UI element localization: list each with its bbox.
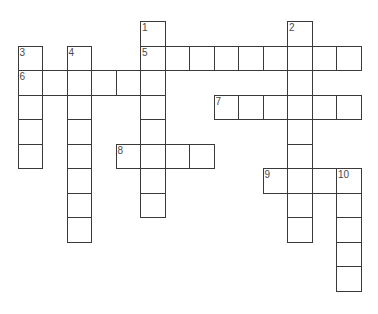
crossword-cell[interactable] [312,168,338,194]
crossword-cell[interactable] [18,144,44,170]
crossword-cell[interactable] [18,119,44,145]
crossword-cell[interactable]: 5 [140,46,166,72]
crossword-cell[interactable]: 10 [336,168,362,194]
crossword-cell[interactable] [67,168,93,194]
crossword-cell[interactable] [42,70,68,96]
clue-number: 9 [265,169,271,180]
crossword-cell[interactable] [287,193,313,219]
clue-number: 4 [69,47,75,58]
crossword-cell[interactable]: 1 [140,21,166,47]
crossword-cell[interactable] [312,95,338,121]
crossword-cell[interactable] [336,193,362,219]
clue-number: 1 [142,22,148,33]
clue-number: 6 [20,71,26,82]
clue-number: 5 [142,47,148,58]
crossword-cell[interactable] [67,217,93,243]
crossword-cell[interactable] [140,70,166,96]
crossword-grid: 15236478910 [0,0,378,314]
crossword-cell[interactable] [287,46,313,72]
crossword-cell[interactable] [140,119,166,145]
clue-number: 2 [289,22,295,33]
crossword-cell[interactable] [263,46,289,72]
crossword-cell[interactable] [67,95,93,121]
crossword-cell[interactable]: 7 [214,95,240,121]
crossword-cell[interactable] [165,144,191,170]
crossword-cell[interactable] [336,266,362,292]
crossword-cell[interactable] [189,46,215,72]
crossword-cell[interactable] [116,70,142,96]
crossword-cell[interactable] [214,46,240,72]
crossword-cell[interactable]: 4 [67,46,93,72]
crossword-cell[interactable] [165,46,191,72]
crossword-cell[interactable]: 6 [18,70,44,96]
clue-number: 3 [20,47,26,58]
clue-number: 8 [118,145,124,156]
crossword-cell[interactable] [336,217,362,243]
crossword-cell[interactable] [67,193,93,219]
crossword-cell[interactable] [140,193,166,219]
crossword-cell[interactable] [18,95,44,121]
crossword-cell[interactable] [140,95,166,121]
crossword-cell[interactable] [336,242,362,268]
crossword-cell[interactable] [287,95,313,121]
crossword-cell[interactable] [238,95,264,121]
crossword-cell[interactable] [67,119,93,145]
crossword-cell[interactable] [336,46,362,72]
crossword-cell[interactable] [91,70,117,96]
crossword-cell[interactable]: 2 [287,21,313,47]
crossword-cell[interactable] [238,46,264,72]
crossword-cell[interactable]: 9 [263,168,289,194]
crossword-cell[interactable] [67,144,93,170]
crossword-cell[interactable] [287,70,313,96]
crossword-cell[interactable] [287,144,313,170]
crossword-cell[interactable] [140,168,166,194]
clue-number: 10 [338,169,349,180]
crossword-cell[interactable] [287,119,313,145]
clue-number: 7 [216,96,222,107]
crossword-cell[interactable] [336,95,362,121]
crossword-cell[interactable] [263,95,289,121]
crossword-cell[interactable] [140,144,166,170]
crossword-cell[interactable] [287,217,313,243]
crossword-cell[interactable]: 3 [18,46,44,72]
crossword-cell[interactable] [67,70,93,96]
crossword-cell[interactable] [287,168,313,194]
crossword-cell[interactable] [312,46,338,72]
crossword-cell[interactable]: 8 [116,144,142,170]
crossword-cell[interactable] [189,144,215,170]
